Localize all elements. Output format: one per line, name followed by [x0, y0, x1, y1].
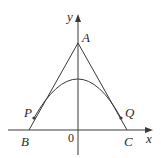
point-P-label: P — [23, 105, 32, 120]
segment-AC — [78, 43, 127, 130]
point-A-label: A — [81, 30, 90, 45]
y-axis-arrow-icon — [75, 14, 81, 22]
x-axis-label: x — [145, 131, 152, 146]
diagram-figure: y x 0 A B C P Q — [0, 0, 161, 158]
point-Q-marker — [119, 116, 122, 119]
point-Q-label: Q — [125, 105, 135, 120]
y-axis-label: y — [65, 9, 73, 24]
origin-label: 0 — [68, 131, 74, 145]
point-C-label: C — [124, 134, 133, 149]
point-P-marker — [32, 116, 35, 119]
segment-AB — [29, 43, 78, 130]
point-B-label: B — [21, 134, 29, 149]
